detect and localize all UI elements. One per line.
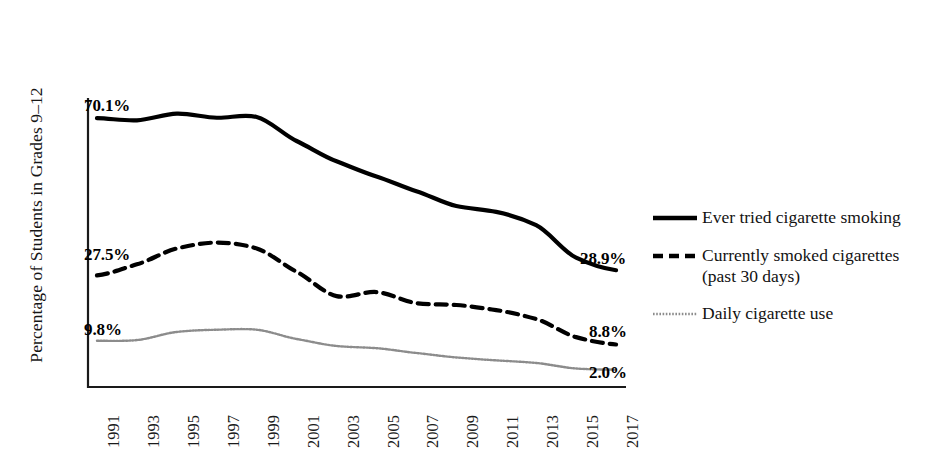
annotation-solid-start: 70.1% — [84, 96, 130, 116]
y-axis-title: Percentage of Students in Grades 9–12 — [16, 70, 56, 380]
chart-figure: Percentage of Students in Grades 9–12 19… — [0, 0, 929, 454]
legend-label: Ever tried cigarette smoking — [702, 206, 924, 228]
x-tick-label: 1999 — [264, 415, 284, 448]
annotation-dashed-end: 8.8% — [589, 322, 627, 342]
y-axis-title-text: Percentage of Students in Grades 9–12 — [26, 87, 47, 362]
legend-key-solid-icon — [652, 206, 698, 228]
line-chart-svg — [78, 86, 638, 396]
legend-item-1[interactable]: Currently smoked cigarettes (past 30 day… — [652, 244, 924, 286]
x-tick-label: 2017 — [623, 415, 643, 448]
x-tick-label: 2015 — [583, 415, 603, 448]
axis-spines — [88, 98, 626, 387]
x-tick-label: 1991 — [104, 415, 124, 448]
x-tick-label: 2003 — [344, 415, 364, 448]
x-tick-label: 1993 — [144, 415, 164, 448]
legend-label: Daily cigarette use — [702, 302, 924, 324]
legend-key-dashed-icon — [652, 244, 698, 266]
annotation-solid-end: 28.9% — [580, 249, 626, 269]
x-tick-label: 2009 — [463, 415, 483, 448]
annotation-dashed-start: 27.5% — [84, 245, 130, 265]
x-tick-label: 2007 — [423, 415, 443, 448]
x-tick-label: 2005 — [384, 415, 404, 448]
legend-item-2[interactable]: Daily cigarette use — [652, 302, 924, 324]
legend-key-dotted-icon — [652, 302, 698, 324]
x-tick-label: 1995 — [184, 415, 204, 448]
x-tick-label: 2001 — [304, 415, 324, 448]
plot-area — [78, 86, 638, 396]
series-line-0 — [97, 114, 616, 271]
series-layer — [97, 114, 616, 370]
series-line-2 — [97, 329, 616, 370]
x-tick-label: 2013 — [543, 415, 563, 448]
x-axis-tick-labels: 1991199319951997199920012003200520072009… — [78, 392, 638, 454]
series-line-1 — [97, 243, 616, 345]
legend-label: Currently smoked cigarettes (past 30 day… — [702, 244, 924, 286]
chart-legend: Ever tried cigarette smokingCurrently sm… — [652, 206, 924, 340]
annotation-dotted-end: 2.0% — [589, 363, 627, 383]
x-tick-label: 1997 — [224, 415, 244, 448]
annotation-dotted-start: 9.8% — [84, 320, 122, 340]
x-tick-label: 2011 — [503, 416, 523, 448]
legend-item-0[interactable]: Ever tried cigarette smoking — [652, 206, 924, 228]
